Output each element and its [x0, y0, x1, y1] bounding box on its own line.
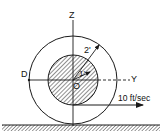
ground-surface: [2, 125, 160, 131]
point-d-label: D: [21, 70, 28, 79]
y-axis-label: Y: [131, 75, 137, 84]
outer-radius-label: 2': [84, 46, 91, 55]
point-d-marker: [28, 79, 30, 81]
velocity-label: 10 ft/sec: [118, 94, 150, 103]
inner-radius-label: 1': [79, 70, 85, 78]
z-axis-label: Z: [69, 11, 75, 20]
origin-label: O: [73, 82, 80, 91]
